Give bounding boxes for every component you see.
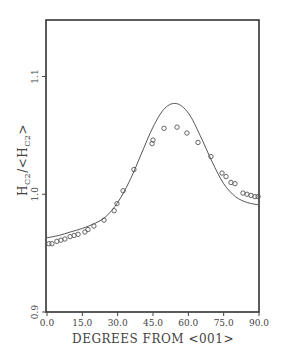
x-tick-label: 45.0 — [143, 318, 163, 328]
data-point — [196, 140, 200, 144]
data-point — [162, 126, 166, 130]
y-tick-label: 1.0 — [30, 187, 40, 202]
plot-frame — [46, 20, 259, 312]
data-point — [86, 227, 90, 231]
x-axis-ticks: 0.015.030.045.060.075.090.0 — [40, 312, 269, 328]
y-tick-label: 1.1 — [30, 69, 40, 83]
data-point — [224, 174, 228, 178]
x-tick-label: 30.0 — [108, 318, 128, 328]
x-tick-label: 90.0 — [249, 318, 269, 328]
data-point — [92, 224, 96, 228]
x-axis-title: DEGREES FROM <001> — [72, 332, 234, 346]
data-point — [50, 242, 54, 246]
measured-points — [47, 125, 261, 246]
data-point — [112, 209, 116, 213]
x-tick-label: 15.0 — [72, 318, 92, 328]
data-point — [233, 181, 237, 185]
data-point — [175, 125, 179, 129]
y-axis-title: HC2/<HC2> — [16, 124, 32, 196]
data-point — [185, 131, 189, 135]
x-tick-label: 75.0 — [214, 318, 234, 328]
chart: 0.015.030.045.060.075.090.0 0.91.01.1 DE… — [0, 0, 286, 357]
data-point — [83, 230, 87, 234]
data-point — [76, 232, 80, 236]
y-axis-ticks: 0.91.01.1 — [30, 69, 46, 319]
plot-border — [46, 20, 259, 312]
x-tick-label: 0.0 — [40, 318, 55, 328]
data-point — [63, 237, 67, 241]
theory-curve — [47, 103, 259, 237]
data-point — [220, 171, 224, 175]
x-tick-label: 60.0 — [178, 318, 198, 328]
y-tick-label: 0.9 — [30, 305, 40, 320]
theory-line — [47, 103, 259, 237]
